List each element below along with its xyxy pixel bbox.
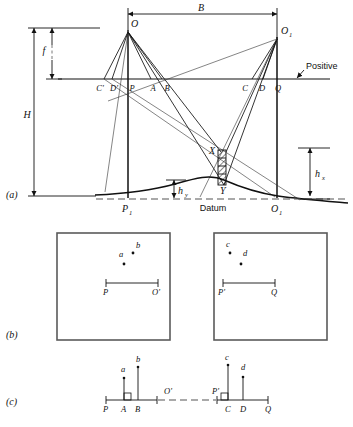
panel-c-right-right-angle-marker bbox=[221, 393, 228, 400]
ray-O-to-Dprime bbox=[112, 32, 128, 79]
label-camera-O1-subscript: 1 bbox=[289, 31, 292, 38]
figure-page: B H f Positive bbox=[0, 0, 353, 427]
label-ground-P-subscript: 1 bbox=[129, 209, 132, 216]
panel-c-label-d: d bbox=[241, 362, 246, 372]
label-camera-O1: O bbox=[281, 25, 288, 36]
left-photo-label-a: a bbox=[119, 249, 123, 259]
positive-plane: Positive bbox=[58, 61, 338, 79]
label-C: C bbox=[242, 83, 248, 93]
panel-c-point-b-dot bbox=[137, 366, 140, 369]
label-hy-subscript: y bbox=[184, 191, 188, 198]
panel-c-label-Pprime: P' bbox=[211, 386, 219, 396]
panel-c-axis-label-D: D bbox=[239, 404, 247, 414]
label-camera-O1-group: O 1 bbox=[281, 25, 292, 38]
label-datum: Datum bbox=[200, 203, 227, 213]
ray-O-to-X bbox=[128, 32, 221, 152]
ray-O-left-edge bbox=[105, 32, 128, 192]
panel-c-group: a b c d P A B O' P' C D Q (c) bbox=[6, 352, 271, 414]
label-base-B: B bbox=[198, 2, 204, 13]
label-hy: h bbox=[178, 185, 183, 196]
label-B: B bbox=[164, 83, 169, 93]
left-photo-label-b: b bbox=[136, 240, 140, 250]
left-photo-point-b-dot bbox=[132, 252, 135, 255]
left-photo-label-Oprime: O' bbox=[152, 287, 160, 297]
right-photo-label-Q: Q bbox=[271, 287, 277, 297]
dimension-focal-f: f bbox=[43, 28, 62, 79]
label-Dprime: D' bbox=[109, 83, 118, 93]
left-photo-point-a-dot bbox=[123, 263, 126, 266]
label-point-X: X bbox=[208, 145, 216, 156]
panel-c-point-d-dot bbox=[242, 376, 245, 379]
ray-Cprime-extended bbox=[104, 79, 275, 197]
panel-tag-c: (c) bbox=[6, 396, 18, 408]
dimension-height-H: H bbox=[22, 28, 100, 196]
object-column-XY: X Y bbox=[208, 145, 227, 196]
label-A: A bbox=[149, 83, 156, 93]
label-ground-P: P bbox=[121, 203, 128, 214]
left-photo-label-P: P bbox=[102, 287, 108, 297]
label-point-Y: Y bbox=[220, 185, 227, 196]
dimension-hy: h y bbox=[166, 180, 188, 198]
dimension-hx: h x bbox=[298, 148, 330, 199]
panel-c-label-c: c bbox=[225, 352, 229, 362]
panel-c-axis-label-Q: Q bbox=[265, 404, 271, 414]
panel-tag-a: (a) bbox=[6, 189, 18, 201]
positive-callout-arrow bbox=[297, 70, 304, 78]
panel-c-label-Oprime: O' bbox=[164, 386, 172, 396]
ray-Dprime-extended bbox=[112, 79, 300, 200]
panel-c-axis-label-A: A bbox=[120, 404, 127, 414]
xy-hatched-bar bbox=[218, 150, 226, 185]
right-photo-point-d-dot bbox=[240, 263, 243, 266]
ray-O1-to-X bbox=[226, 39, 277, 152]
panel-c-axis-label-P: P bbox=[102, 404, 108, 414]
right-camera-rays bbox=[108, 39, 277, 197]
panel-c-label-a: a bbox=[121, 364, 125, 374]
ray-O-to-A bbox=[128, 32, 151, 79]
right-photo-label-Pprime: P' bbox=[217, 287, 225, 297]
label-hx-subscript: x bbox=[321, 174, 325, 181]
label-Cprime: C' bbox=[96, 83, 104, 93]
label-Q: Q bbox=[275, 83, 281, 93]
label-P: P bbox=[128, 83, 134, 93]
label-ground-O: O bbox=[271, 203, 278, 214]
label-ground-O-subscript: 1 bbox=[279, 209, 282, 216]
label-hx: h bbox=[315, 168, 320, 179]
panel-c-axis-label-B: B bbox=[135, 404, 140, 414]
right-photo-point-c-dot bbox=[229, 252, 232, 255]
panel-c-point-a-dot bbox=[123, 377, 126, 380]
label-camera-O: O bbox=[131, 18, 138, 29]
panel-a-group: B H f Positive bbox=[6, 2, 348, 216]
panel-c-label-b: b bbox=[136, 354, 140, 364]
panel-c-left-right-angle-marker bbox=[124, 393, 131, 400]
panel-tag-b: (b) bbox=[6, 329, 18, 341]
panel-b-group: b a P O' c d P' Q (b) bbox=[6, 233, 327, 341]
label-ground-O1-group: O 1 bbox=[271, 203, 282, 216]
ray-O1-to-Y bbox=[224, 39, 277, 185]
label-f: f bbox=[43, 45, 47, 56]
label-P1-group: P 1 bbox=[121, 203, 132, 216]
dimension-base-B: B bbox=[128, 2, 277, 40]
label-positive: Positive bbox=[306, 61, 338, 71]
figure-canvas: B H f Positive bbox=[0, 0, 353, 427]
ray-O-to-Y bbox=[128, 32, 224, 185]
panel-c-point-c-dot bbox=[227, 364, 230, 367]
panel-c-axis-label-C: C bbox=[225, 404, 231, 414]
label-H: H bbox=[22, 109, 31, 120]
right-photo-label-c: c bbox=[226, 239, 230, 249]
label-D: D bbox=[258, 83, 266, 93]
